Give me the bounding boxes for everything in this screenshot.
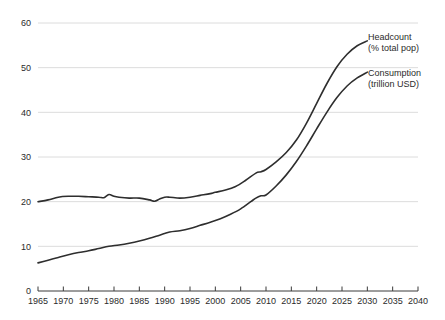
- annotation-consumption-line1: Consumption: [368, 68, 421, 78]
- y-tick-label-10: 10: [21, 242, 31, 252]
- line-chart: 0102030405060 19651970197519801985199019…: [0, 0, 445, 320]
- y-tick-label-30: 30: [21, 152, 31, 162]
- y-tick-label-60: 60: [21, 18, 31, 28]
- x-tick-label-2010: 2010: [256, 296, 276, 306]
- x-tick-label-2035: 2035: [383, 296, 403, 306]
- x-tick-label-2020: 2020: [307, 296, 327, 306]
- x-tick-label-2000: 2000: [205, 296, 225, 306]
- y-tick-label-0: 0: [26, 286, 31, 296]
- x-tick-label-1965: 1965: [28, 296, 48, 306]
- x-tick-label-1995: 1995: [180, 296, 200, 306]
- x-tick-label-2015: 2015: [281, 296, 301, 306]
- x-tick-label-1980: 1980: [104, 296, 124, 306]
- x-tick-label-2040: 2040: [408, 296, 428, 306]
- x-tick-label-1990: 1990: [155, 296, 175, 306]
- x-tick-label-1975: 1975: [79, 296, 99, 306]
- x-tick-label-2030: 2030: [357, 296, 377, 306]
- y-tick-label-40: 40: [21, 108, 31, 118]
- x-tick-label-1985: 1985: [129, 296, 149, 306]
- x-tick-label-2025: 2025: [332, 296, 352, 306]
- x-tick-label-2005: 2005: [231, 296, 251, 306]
- annotation-consumption-line2: (trillion USD): [368, 79, 419, 89]
- annotation-headcount-line2: (% total pop): [368, 43, 419, 53]
- annotation-headcount-line1: Headcount: [368, 32, 412, 42]
- x-tick-label-1970: 1970: [53, 296, 73, 306]
- chart-container: 0102030405060 19651970197519801985199019…: [0, 0, 445, 320]
- y-tick-label-50: 50: [21, 63, 31, 73]
- y-tick-label-20: 20: [21, 197, 31, 207]
